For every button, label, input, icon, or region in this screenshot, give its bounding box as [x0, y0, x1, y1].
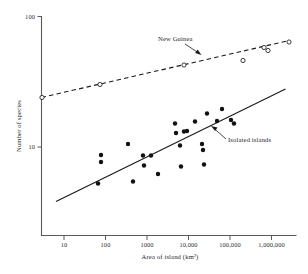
- x-tick-label-10: 10: [61, 241, 68, 248]
- data-point-open: [266, 48, 270, 52]
- isolated-islands-trend-line: [56, 89, 286, 202]
- data-point-filled: [200, 142, 204, 146]
- data-point-filled: [202, 162, 206, 166]
- data-point-open: [241, 58, 245, 62]
- new-guinea-annotation: New Guinea: [158, 35, 202, 55]
- data-point-filled: [156, 172, 160, 176]
- x-tick-label-1000000: 1,000,000: [258, 241, 284, 248]
- data-point-open: [262, 45, 266, 49]
- data-point-filled: [232, 121, 236, 125]
- data-point-filled: [205, 111, 209, 115]
- data-point-filled: [173, 121, 177, 125]
- new-guinea-trend-line: [42, 41, 290, 98]
- data-point-filled: [99, 153, 103, 157]
- x-tick-label-100000: 100,000: [219, 241, 240, 248]
- x-tick-label-10000: 10,000: [179, 241, 197, 248]
- isolated-islands-annotation: Isolated islands: [211, 126, 272, 143]
- data-point-filled: [193, 119, 197, 123]
- isolated-islands-label: Isolated islands: [228, 136, 272, 143]
- data-point-filled: [179, 164, 183, 168]
- species-area-chart-figure: 100 10 10 100 1000 10,000 100,000 1,000,…: [0, 0, 308, 274]
- y-axis-title: Number of species: [15, 100, 22, 152]
- data-point-open: [98, 82, 102, 86]
- x-ticks-group: 10 100 1000 10,000 100,000 1,000,000: [61, 236, 285, 249]
- data-point-filled: [96, 181, 100, 185]
- data-point-filled: [149, 153, 153, 157]
- data-point-filled: [99, 160, 103, 164]
- data-point-filled: [220, 107, 224, 111]
- data-point-filled: [201, 148, 205, 152]
- new-guinea-arrowhead: [195, 50, 201, 55]
- data-point-open: [40, 95, 44, 99]
- data-point-filled: [141, 153, 145, 157]
- data-point-open: [182, 63, 186, 67]
- y-tick-label-100: 100: [25, 13, 35, 20]
- x-tick-label-100: 100: [101, 241, 111, 248]
- data-point-filled: [215, 119, 219, 123]
- chart-canvas: 100 10 10 100 1000 10,000 100,000 1,000,…: [0, 0, 308, 274]
- data-point-filled: [174, 131, 178, 135]
- x-tick-label-1000: 1000: [140, 241, 153, 248]
- y-tick-label-10: 10: [28, 143, 35, 150]
- data-point-open: [287, 40, 291, 44]
- data-point-filled: [185, 129, 189, 133]
- axes-group: [42, 17, 297, 236]
- y-ticks-group: 100 10: [25, 13, 41, 151]
- data-point-filled: [142, 163, 146, 167]
- new-guinea-label: New Guinea: [158, 35, 193, 42]
- data-point-filled: [131, 179, 135, 183]
- isolated-islands-points-group: [96, 107, 236, 186]
- x-axis-title: Area of island (km²): [142, 253, 199, 261]
- data-point-filled: [229, 118, 233, 122]
- data-point-filled: [178, 143, 182, 147]
- data-point-filled: [126, 142, 130, 146]
